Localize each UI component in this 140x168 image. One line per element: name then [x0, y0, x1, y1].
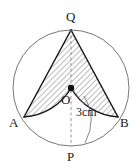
center-point-dot: [68, 85, 74, 91]
label-dimension-3cm: 3cm: [76, 106, 97, 118]
label-point-b: B: [120, 116, 129, 129]
label-point-p: P: [67, 150, 74, 163]
label-point-a: A: [9, 116, 18, 129]
label-point-q: Q: [66, 10, 75, 23]
label-point-o: O: [61, 93, 70, 106]
geometry-canvas: [0, 0, 140, 168]
geometry-figure: Q O A B P 3cm: [0, 0, 140, 168]
